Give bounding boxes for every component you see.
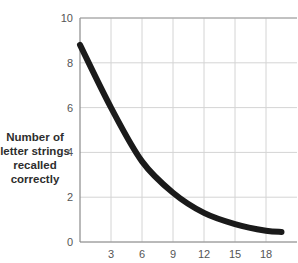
x-tick-label: 12 [198,248,210,260]
grid [80,18,297,242]
axes [80,18,297,242]
y-tick-label: 4 [67,146,73,158]
y-tick-labels: 0246810 [61,12,73,248]
x-tick-labels: 369121518 [108,248,272,260]
y-tick-label: 10 [61,12,73,24]
y-tick-label: 6 [67,102,73,114]
line-chart: 0246810 369121518 [0,0,298,263]
x-tick-label: 9 [170,248,176,260]
x-tick-label: 18 [260,248,272,260]
x-tick-label: 3 [108,248,114,260]
y-tick-label: 2 [67,191,73,203]
x-tick-label: 6 [139,248,145,260]
y-tick-label: 8 [67,57,73,69]
y-tick-label: 0 [67,236,73,248]
recall-curve [80,45,282,232]
x-tick-label: 15 [229,248,241,260]
